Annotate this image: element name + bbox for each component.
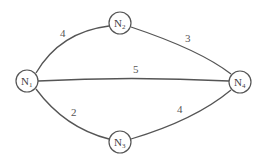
node-n2-subscript: 2 bbox=[122, 23, 126, 31]
edge-n1-n2 bbox=[36, 26, 109, 73]
node-n4: N4 bbox=[229, 71, 251, 93]
edge-weight-n1-n4: 5 bbox=[133, 63, 139, 75]
node-n4-subscript: 4 bbox=[242, 82, 246, 90]
edge-weight-n3-n4: 4 bbox=[177, 103, 183, 115]
node-n3: N3 bbox=[109, 131, 131, 153]
node-n2-label: N bbox=[114, 17, 122, 29]
edge-weight-n2-n4: 3 bbox=[185, 32, 191, 44]
edge-n1-n4 bbox=[38, 79, 229, 82]
node-n1: N1 bbox=[16, 70, 38, 92]
node-n1-label: N bbox=[21, 75, 29, 87]
node-n3-label: N bbox=[114, 136, 122, 148]
node-n3-subscript: 3 bbox=[122, 142, 126, 150]
node-n2: N2 bbox=[109, 12, 131, 34]
node-n4-label: N bbox=[234, 76, 242, 88]
node-n1-subscript: 1 bbox=[29, 81, 33, 89]
edge-weight-n1-n2: 4 bbox=[60, 27, 66, 39]
edge-n2-n4 bbox=[131, 27, 231, 74]
graph-canvas: 4 3 5 2 4 N1 N2 N3 N4 bbox=[0, 0, 262, 161]
edge-weight-n1-n3: 2 bbox=[71, 106, 77, 118]
